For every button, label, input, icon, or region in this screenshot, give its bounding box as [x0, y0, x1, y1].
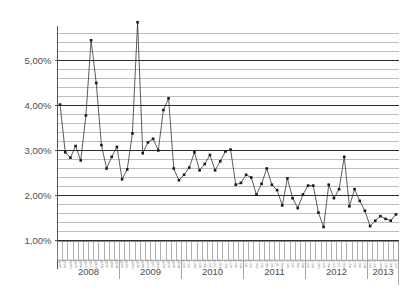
data-point-marker: [384, 218, 387, 221]
data-point-marker: [172, 167, 175, 170]
data-point-marker: [276, 189, 279, 192]
month-tick-label: mar 08: [69, 259, 73, 269]
month-tick-label: des 11: [301, 259, 305, 268]
data-point-marker: [214, 169, 217, 172]
data-point-marker: [240, 182, 243, 185]
year-label: 2011: [264, 266, 284, 277]
month-tick-label: feb 09: [125, 259, 129, 268]
month-tick-label: jan 08: [58, 259, 62, 269]
year-label: 2012: [326, 266, 347, 277]
data-point-marker: [245, 174, 248, 177]
y-axis-tick-label: 3,00%: [25, 145, 52, 156]
x-axis-month-ticks: [58, 242, 399, 261]
month-tick-label: sep 10: [224, 259, 228, 269]
data-point-marker: [224, 150, 227, 153]
data-point-marker: [286, 177, 289, 180]
y-axis-tick-label: 5,00%: [25, 55, 52, 66]
month-tick-label: okt 11: [291, 259, 295, 267]
month-tick-label: okt 08: [105, 259, 109, 268]
month-tick-label: mar 12: [317, 259, 321, 269]
month-tick-label: jan 11: [244, 259, 248, 268]
data-point-marker: [219, 160, 222, 163]
data-point-marker: [69, 156, 72, 159]
year-label: 2013: [372, 266, 393, 277]
month-tick-label: jan 12: [306, 259, 310, 269]
data-point-marker: [353, 188, 356, 191]
data-point-marker: [255, 193, 258, 196]
data-point-marker: [343, 156, 346, 159]
month-tick-label: nov 09: [172, 259, 176, 269]
month-tick-label: mar 10: [193, 259, 197, 269]
data-point-marker: [265, 167, 268, 170]
month-tick-label: mar 11: [255, 259, 259, 269]
data-point-marker: [317, 211, 320, 214]
data-point-marker: [178, 179, 181, 182]
minor-gridlines: [58, 34, 399, 232]
series-polyline: [60, 22, 396, 227]
data-point-marker: [229, 148, 232, 151]
data-point-marker: [348, 205, 351, 208]
data-point-marker: [90, 39, 93, 42]
data-point-marker: [250, 176, 253, 179]
data-point-marker: [203, 163, 206, 166]
data-series-line: [60, 22, 396, 227]
data-point-marker: [157, 149, 160, 152]
data-point-marker: [307, 184, 310, 187]
data-point-marker: [198, 169, 201, 172]
data-point-marker: [364, 210, 367, 213]
month-tick-label: sep 11: [286, 259, 290, 268]
month-tick-label: feb 12: [311, 259, 315, 268]
data-point-marker: [183, 174, 186, 177]
month-tick-label: nov 10: [234, 259, 238, 269]
month-tick-label: okt 09: [167, 259, 171, 268]
data-point-marker: [126, 168, 129, 171]
data-point-marker: [59, 103, 62, 106]
data-point-marker: [333, 197, 336, 200]
y-axis-tick-label: 4,00%: [25, 100, 52, 111]
data-point-marker: [338, 188, 341, 191]
year-label: 2008: [78, 266, 99, 277]
data-point-marker: [369, 225, 372, 228]
month-tick-label: okt 12: [353, 259, 357, 268]
data-point-marker: [162, 109, 165, 112]
data-point-marker: [116, 146, 119, 149]
data-point-marker: [358, 200, 361, 203]
data-point-marker: [64, 151, 67, 154]
month-tick-label: nov 11: [296, 259, 300, 268]
y-axis-tick-labels: 1,00%2,00%3,00%4,00%5,00%: [25, 55, 58, 246]
data-point-marker: [234, 183, 237, 186]
month-tick-label: sep 09: [162, 259, 166, 269]
data-point-marker: [100, 144, 103, 147]
data-point-marker: [260, 183, 263, 186]
month-tick-label: sep 08: [100, 259, 104, 269]
data-series-markers: [59, 21, 397, 228]
data-point-marker: [74, 145, 77, 148]
data-point-marker: [389, 219, 392, 222]
month-tick-label: feb 11: [249, 259, 253, 268]
month-tick-label: des 10: [239, 259, 243, 269]
data-point-marker: [152, 138, 155, 141]
year-label: 2010: [202, 266, 223, 277]
month-tick-label: jun 13: [394, 259, 398, 269]
data-point-marker: [147, 141, 150, 144]
data-point-marker: [312, 184, 315, 187]
month-tick-label: des 08: [115, 259, 119, 269]
data-point-marker: [110, 156, 113, 159]
data-point-marker: [395, 213, 398, 216]
month-tick-label: jan 09: [120, 259, 124, 269]
month-tick-label: nov 12: [358, 259, 362, 269]
data-point-marker: [131, 132, 134, 135]
month-tick-label: feb 08: [63, 259, 67, 268]
line-chart-plot: 1,00%2,00%3,00%4,00%5,00% jan 08feb 08ma…: [0, 0, 419, 293]
data-point-marker: [85, 114, 88, 117]
month-tick-label: jan 10: [182, 259, 186, 269]
data-point-marker: [105, 167, 108, 170]
data-point-marker: [302, 193, 305, 196]
month-tick-label: okt 10: [229, 259, 233, 268]
month-tick-label: feb 10: [187, 259, 191, 268]
data-point-marker: [95, 82, 98, 85]
data-point-marker: [141, 152, 144, 155]
data-point-marker: [121, 178, 124, 181]
data-point-marker: [322, 226, 325, 229]
y-axis-tick-label: 2,00%: [25, 190, 52, 201]
